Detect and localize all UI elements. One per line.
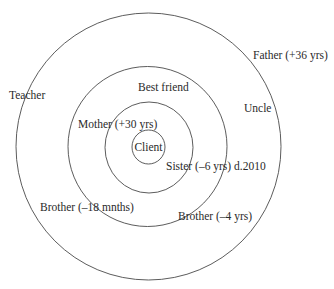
label-mother: Mother (+30 yrs) — [78, 118, 157, 131]
relationship-circles-diagram: Client Mother (+30 yrs) Sister (–6 yrs) … — [0, 0, 334, 289]
label-client: Client — [134, 141, 163, 153]
label-sister: Sister (–6 yrs) d.2010 — [166, 160, 266, 173]
label-father: Father (+36 yrs) — [253, 49, 328, 62]
label-teacher: Teacher — [9, 89, 45, 101]
label-uncle: Uncle — [244, 102, 271, 114]
label-brother-4-years: Brother (–4 yrs) — [178, 210, 252, 223]
label-best-friend: Best friend — [138, 81, 189, 93]
label-brother-18-months: Brother (–18 mnths) — [40, 201, 134, 214]
